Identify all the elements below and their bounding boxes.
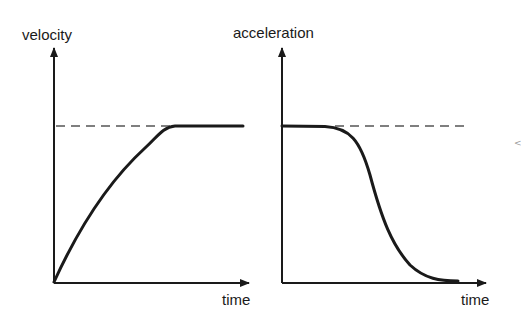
velocity-time-label: time (222, 292, 250, 307)
acceleration-time-label: time (461, 292, 489, 307)
velocity-axis-label: velocity (22, 27, 72, 42)
velocity-chart (54, 48, 249, 283)
acceleration-curve (282, 126, 458, 281)
figure-graphics (0, 0, 521, 325)
figure-canvas: velocity time acceleration time < (0, 0, 521, 325)
velocity-curve (54, 126, 243, 282)
acceleration-axis-label: acceleration (233, 25, 314, 40)
stray-mark: < (514, 139, 521, 148)
acceleration-chart (282, 48, 486, 283)
